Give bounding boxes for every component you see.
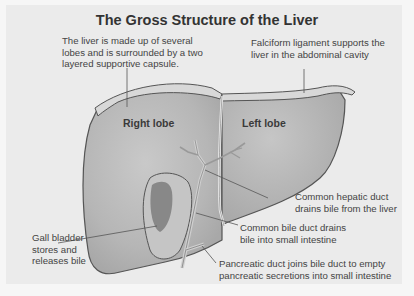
bile-duct-label: Common bile duct drains bile into small … xyxy=(240,222,346,245)
diagram-title: The Gross Structure of the Liver xyxy=(0,12,414,28)
pancreatic-duct-label: Pancreatic duct joins bile duct to empty… xyxy=(219,258,391,281)
right-lobe-label: Right lobe xyxy=(123,117,174,129)
capsule-label: The liver is made up of several lobes an… xyxy=(62,35,203,70)
falciform-label: Falciform ligament supports the liver in… xyxy=(251,37,385,60)
left-lobe-label: Left lobe xyxy=(242,117,286,129)
gall-bladder-label: Gall bladder stores and releases bile xyxy=(32,232,86,267)
hepatic-duct-label: Common hepatic duct drains bile from the… xyxy=(295,191,397,214)
